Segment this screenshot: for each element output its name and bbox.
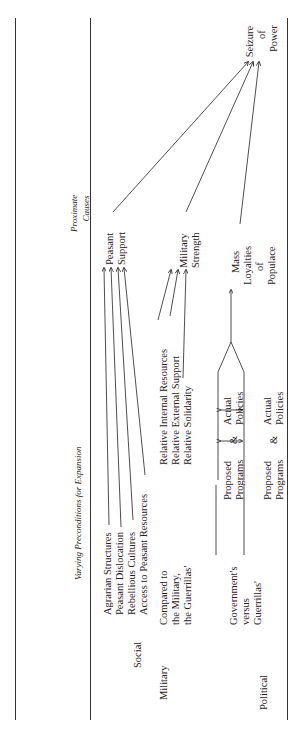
diagram-connectors	[0, 0, 301, 730]
